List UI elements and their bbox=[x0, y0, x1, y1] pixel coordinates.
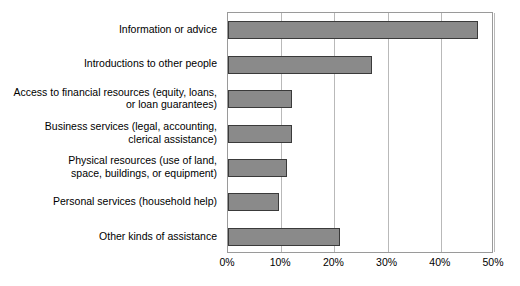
bar bbox=[228, 90, 292, 108]
category-label: Personal services (household help) bbox=[0, 195, 222, 208]
x-tick-label: 10% bbox=[270, 255, 291, 269]
category-axis-labels: Information or adviceIntroductions to ot… bbox=[0, 12, 222, 253]
bar-chart: Information or adviceIntroductions to ot… bbox=[0, 0, 520, 286]
bar bbox=[228, 228, 340, 246]
category-label: Other kinds of assistance bbox=[0, 230, 222, 243]
x-tick-label: 40% bbox=[429, 255, 450, 269]
gridline bbox=[334, 13, 335, 252]
category-label: Access to financial resources (equity, l… bbox=[0, 86, 222, 111]
category-label: Introductions to other people bbox=[0, 57, 222, 70]
x-tick-label: 30% bbox=[376, 255, 397, 269]
category-label: Business services (legal, accounting, cl… bbox=[0, 120, 222, 145]
x-tick-label: 50% bbox=[482, 255, 503, 269]
plot-area bbox=[227, 12, 493, 253]
bar bbox=[228, 193, 279, 211]
bar bbox=[228, 159, 287, 177]
x-tick-label: 20% bbox=[323, 255, 344, 269]
bar bbox=[228, 125, 292, 143]
category-label: Physical resources (use of land, space, … bbox=[0, 154, 222, 179]
gridline bbox=[441, 13, 442, 252]
x-axis-tick-labels: 0%10%20%30%40%50% bbox=[0, 255, 520, 275]
bar bbox=[228, 56, 372, 74]
x-tick-label: 0% bbox=[219, 255, 234, 269]
category-label: Information or advice bbox=[0, 23, 222, 36]
gridline bbox=[494, 13, 495, 252]
bar bbox=[228, 21, 478, 39]
gridline bbox=[388, 13, 389, 252]
